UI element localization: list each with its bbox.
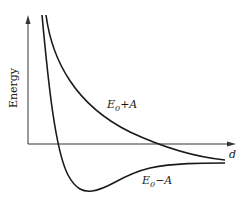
curve-e0-plus-a [46, 15, 225, 160]
label-e0-minus-a: E0−A [141, 174, 172, 189]
energy-diagram: Energy d E0+A E0−A [0, 0, 248, 203]
x-axis-arrow-icon [227, 142, 236, 147]
y-axis-arrow-icon [26, 15, 31, 24]
y-axis-label: Energy [7, 67, 20, 108]
x-axis-label: d [229, 148, 236, 161]
label-e0-plus-a: E0+A [106, 98, 137, 113]
